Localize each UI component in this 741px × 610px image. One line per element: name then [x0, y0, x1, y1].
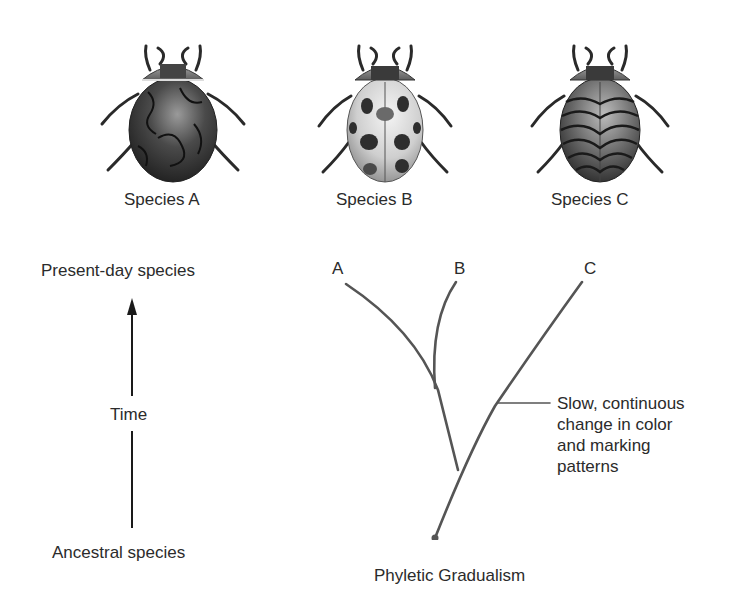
- present-day-species-label: Present-day species: [41, 261, 195, 281]
- species-a-label: Species A: [124, 190, 200, 210]
- species-c-label: Species C: [551, 190, 628, 210]
- time-label: Time: [110, 405, 147, 425]
- gradual-change-annotation: Slow, continuous change in color and mar…: [557, 393, 685, 477]
- diagram-caption: Phyletic Gradualism: [374, 566, 525, 586]
- beetle-species-b-image: [315, 42, 455, 190]
- annotation-line: and marking: [557, 435, 685, 456]
- annotation-line: change in color: [557, 414, 685, 435]
- phyletic-gradualism-diagram: Species A Species B: [0, 0, 741, 610]
- annotation-line: Slow, continuous: [557, 393, 685, 414]
- beetle-species-c-image: [530, 42, 670, 190]
- species-b-label: Species B: [336, 190, 413, 210]
- beetle-species-a-image: [98, 42, 248, 190]
- annotation-line: patterns: [557, 456, 685, 477]
- ancestral-species-label: Ancestral species: [52, 543, 185, 563]
